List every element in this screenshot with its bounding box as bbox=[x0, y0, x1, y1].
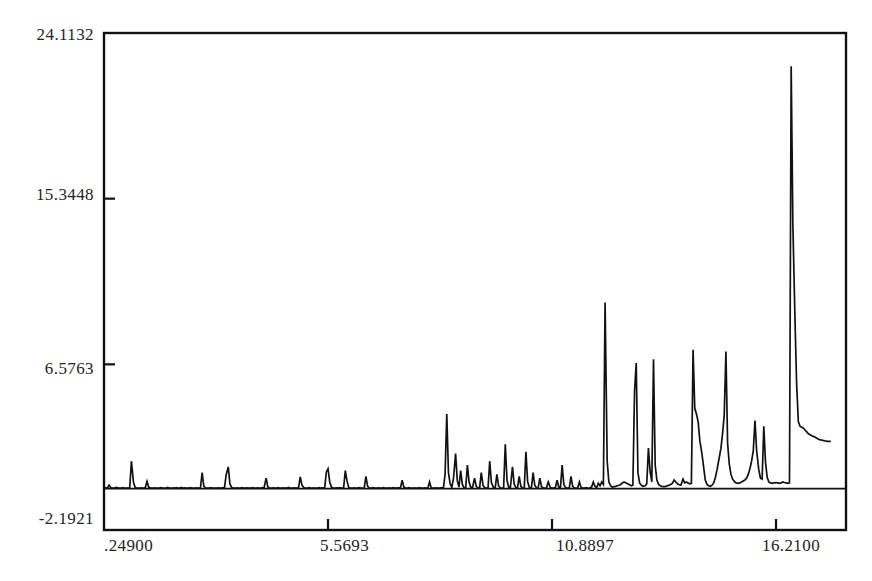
x-tick-label-4: 16.2100 bbox=[762, 536, 820, 556]
x-tick-label-2: 5.5693 bbox=[320, 536, 369, 556]
y-tick-label-max: 24.1132 bbox=[8, 25, 94, 45]
chart-background bbox=[0, 0, 872, 581]
y-tick-label-min: -2.1921 bbox=[8, 509, 94, 529]
x-tick-label-3: 10.8897 bbox=[556, 536, 614, 556]
y-tick-label-2: 6.5763 bbox=[8, 359, 94, 379]
chart-container: 24.1132 15.3448 6.5763 -2.1921 .24900 5.… bbox=[0, 0, 872, 581]
x-tick-label-1: .24900 bbox=[104, 536, 153, 556]
line-chart-plot bbox=[0, 0, 872, 581]
y-tick-label-3: 15.3448 bbox=[8, 185, 94, 205]
